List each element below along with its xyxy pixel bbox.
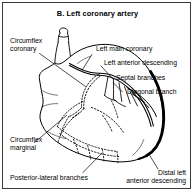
label-diagonal-branch: Diagonal branch [127,88,177,96]
figure-panel: B. Left coronary artery [2,2,191,189]
label-circumflex-marginal-line2: marginal [10,144,42,152]
label-circumflex-marginal: Circumflex marginal [10,136,42,153]
label-circumflex-coronary-line2: coronary [10,45,42,53]
label-distal-left-line1: Distal left [66,169,186,177]
label-septal-branches: Septal branches [116,74,165,82]
label-distal-left-anterior-descending: Distal left anterior descending [66,169,186,186]
label-circumflex-coronary-line1: Circumflex [10,37,42,45]
label-circumflex-marginal-line1: Circumflex [10,136,42,144]
label-circumflex-coronary: Circumflex coronary [10,37,42,54]
label-left-anterior-descending: Left anterior descending [104,59,177,67]
label-distal-left-line2: anterior descending [66,177,186,185]
label-left-main-coronary: Left main coronary [96,45,152,53]
